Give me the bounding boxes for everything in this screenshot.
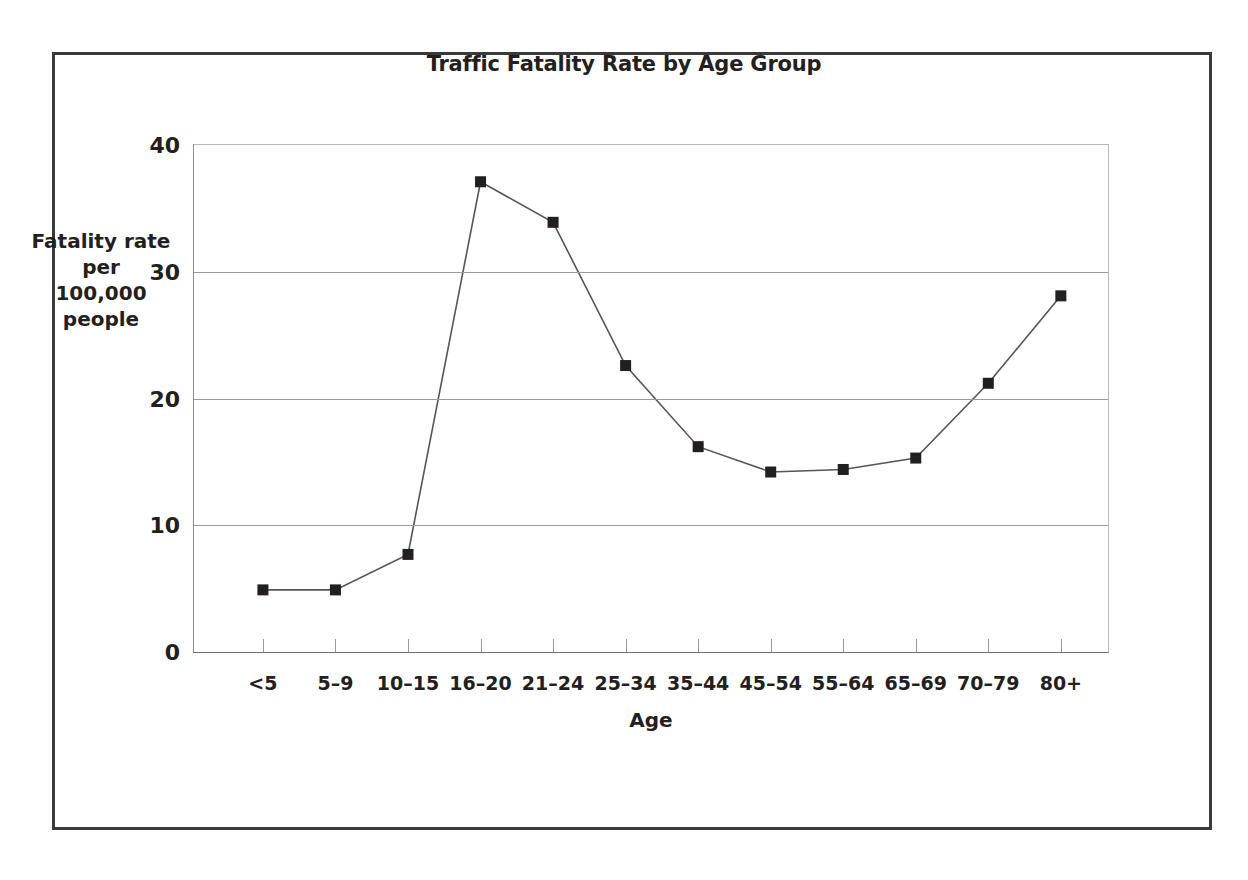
y-tick-label-20: 20 [149, 386, 180, 411]
x-tick-3 [481, 639, 482, 652]
y-axis-title-line-3: people [10, 306, 192, 332]
x-tick-1 [335, 639, 336, 652]
x-tick-10 [988, 639, 989, 652]
x-tick-5 [626, 639, 627, 652]
chart-title: Traffic Fatality Rate by Age Group [0, 52, 1248, 76]
x-tick-label-8: 55–64 [812, 672, 874, 694]
data-point-marker-3 [475, 176, 486, 187]
data-point-marker-1 [330, 584, 341, 595]
data-point-marker-10 [983, 378, 994, 389]
x-tick-8 [843, 639, 844, 652]
data-point-marker-11 [1055, 290, 1066, 301]
x-tick-11 [1061, 639, 1062, 652]
y-axis-title-line-0: Fatality rate [10, 228, 192, 254]
x-tick-label-10: 70–79 [957, 672, 1019, 694]
data-point-marker-9 [910, 453, 921, 464]
x-axis-title: Age [193, 708, 1109, 732]
gridline-y-20 [194, 399, 1108, 400]
data-point-marker-4 [548, 217, 559, 228]
x-tick-6 [698, 639, 699, 652]
x-tick-label-0: <5 [248, 672, 277, 694]
plot-area: 010203040<55–910–1516–2021–2425–3435–444… [193, 144, 1109, 653]
x-tick-label-1: 5–9 [317, 672, 353, 694]
x-tick-label-3: 16–20 [449, 672, 511, 694]
x-tick-2 [408, 639, 409, 652]
data-point-marker-2 [402, 549, 413, 560]
y-tick-label-0: 0 [165, 640, 180, 665]
x-tick-7 [771, 639, 772, 652]
data-point-marker-6 [693, 441, 704, 452]
y-tick-label-10: 10 [149, 513, 180, 538]
x-tick-label-4: 21–24 [522, 672, 584, 694]
data-point-marker-7 [765, 467, 776, 478]
x-tick-label-5: 25–34 [594, 672, 656, 694]
x-tick-label-9: 65–69 [885, 672, 947, 694]
x-tick-label-2: 10–15 [377, 672, 439, 694]
data-point-marker-8 [838, 464, 849, 475]
x-tick-label-11: 80+ [1040, 672, 1082, 694]
x-tick-label-7: 45–54 [739, 672, 801, 694]
x-tick-4 [553, 639, 554, 652]
series-line [263, 182, 1061, 590]
data-point-marker-0 [257, 584, 268, 595]
x-tick-label-6: 35–44 [667, 672, 729, 694]
x-tick-9 [916, 639, 917, 652]
gridline-y-30 [194, 272, 1108, 273]
x-tick-0 [263, 639, 264, 652]
gridline-y-10 [194, 525, 1108, 526]
y-tick-label-30: 30 [149, 259, 180, 284]
data-point-marker-5 [620, 360, 631, 371]
y-tick-label-40: 40 [149, 133, 180, 158]
